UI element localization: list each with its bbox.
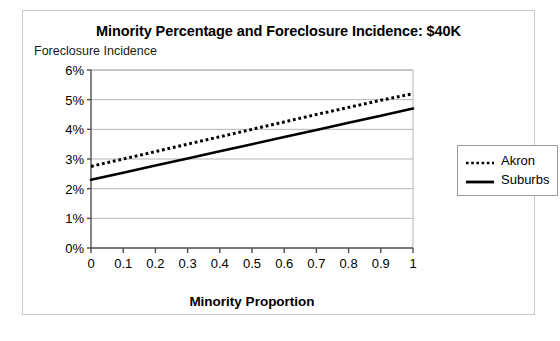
y-tick-label: 6% [65,63,84,78]
legend-item-akron: Akron [465,151,549,170]
x-tick-label: 0.6 [275,256,293,271]
y-tick-label: 0% [65,241,84,256]
x-tick-label: 0.9 [372,256,390,271]
legend-label-akron: Akron [501,153,535,168]
x-tick-label: 1 [409,256,416,271]
y-tick-label: 1% [65,211,84,226]
series-line-suburbs [91,109,413,180]
y-tick-label: 5% [65,92,84,107]
y-axis-label: Foreclosure Incidence [34,44,157,58]
plot-area [91,70,413,248]
y-tick-label: 2% [65,181,84,196]
legend-item-suburbs: Suburbs [465,170,549,189]
x-tick-label: 0 [87,256,94,271]
legend-label-suburbs: Suburbs [501,172,549,187]
x-tick-label: 0.8 [340,256,358,271]
x-tick-label: 0.3 [179,256,197,271]
chart-figure: Minority Percentage and Foreclosure Inci… [22,10,535,315]
x-tick-label: 0.2 [146,256,164,271]
series-line-akron [91,94,413,167]
x-tick-label: 0.5 [243,256,261,271]
y-tick-label: 4% [65,122,84,137]
chart-svg [91,70,413,248]
x-tick-label: 0.1 [114,256,132,271]
legend-swatch-dotted [465,155,495,167]
plot-wrapper: 0%1%2%3%4%5%6%00.10.20.30.40.50.60.70.80… [91,70,413,248]
y-tick-label: 3% [65,152,84,167]
chart-title: Minority Percentage and Foreclosure Inci… [23,23,534,39]
x-axis-label: Minority Proportion [91,294,413,309]
x-tick-label: 0.4 [211,256,229,271]
chart-legend: Akron Suburbs [457,145,558,196]
x-tick-label: 0.7 [307,256,325,271]
legend-swatch-solid [465,174,495,186]
